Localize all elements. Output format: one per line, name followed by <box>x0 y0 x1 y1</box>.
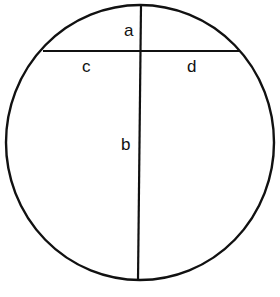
chords-diagram: a c d b <box>0 0 280 297</box>
label-a: a <box>124 21 134 40</box>
label-c: c <box>82 57 91 76</box>
vertical-chord <box>138 5 141 280</box>
label-d: d <box>187 57 196 76</box>
label-b: b <box>121 135 130 154</box>
